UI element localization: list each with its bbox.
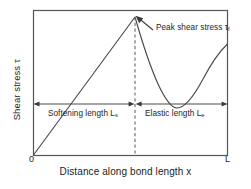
peak-shear-stress-annotation-text: Peak shear stress τ	[156, 23, 228, 32]
softening-length-subscript: s	[115, 112, 118, 118]
elastic-length-annotation: Elastic length Le	[145, 110, 205, 119]
softening-length-annotation-text: Softening length L	[48, 109, 115, 118]
x-axis-label: Distance along bond length x	[0, 167, 251, 177]
elastic-length-arrow	[136, 102, 228, 107]
elastic-length-subscript: e	[201, 112, 204, 118]
y-axis-label: Shear stress τ	[12, 35, 22, 145]
x-axis-end-tick-label: L	[225, 155, 230, 164]
figure-shear-stress-distribution: Distance along bond length x Shear stres…	[0, 0, 251, 189]
softening-length-annotation: Softening length Ls	[48, 110, 118, 119]
shear-stress-curve	[34, 17, 228, 155]
peak-shear-stress-subscript: f	[228, 26, 230, 32]
x-axis-origin-tick-label: 0	[29, 155, 34, 164]
peak-shear-stress-annotation: Peak shear stress τf	[156, 24, 230, 33]
softening-length-arrow	[34, 102, 135, 107]
elastic-length-annotation-text: Elastic length L	[145, 109, 201, 118]
